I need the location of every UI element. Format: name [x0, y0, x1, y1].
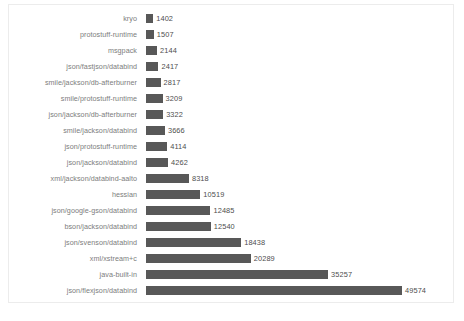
- bar-value-label: 2144: [160, 46, 177, 55]
- bar: [146, 110, 163, 119]
- bar-chart-row: json/jackson/db-afterburner3322: [9, 107, 453, 123]
- bar: [146, 126, 165, 135]
- bar-chart-row: bson/jackson/databind12540: [9, 219, 453, 235]
- chart-container: kryo1402protostuff-runtime1507msgpack214…: [8, 4, 454, 303]
- bar-category-label: json/jackson/db-afterburner: [0, 110, 137, 119]
- bar: [146, 14, 153, 23]
- bar: [146, 270, 328, 279]
- bar-with-value: 4114: [146, 139, 187, 155]
- bar-category-label: protostuff-runtime: [0, 30, 137, 39]
- bar-with-value: 49574: [146, 283, 426, 299]
- bar: [146, 238, 241, 247]
- bar-value-label: 3666: [168, 126, 185, 135]
- bar-category-label: json/jackson/databind: [0, 158, 137, 167]
- bar-with-value: 3322: [146, 107, 183, 123]
- bar-chart-row: json/flexjson/databind49574: [9, 283, 453, 299]
- bar-value-label: 20289: [254, 254, 275, 263]
- bar-with-value: 2817: [146, 75, 180, 91]
- bar-value-label: 49574: [405, 286, 426, 295]
- bar: [146, 94, 163, 103]
- bar-value-label: 1402: [156, 14, 173, 23]
- bar-value-label: 18438: [244, 238, 265, 247]
- bar-value-label: 10519: [203, 190, 224, 199]
- bar-category-label: hessian: [0, 190, 137, 199]
- bar: [146, 78, 161, 87]
- bar-chart-row: json/google-gson/databind12485: [9, 203, 453, 219]
- bar-with-value: 8318: [146, 171, 209, 187]
- bar-category-label: json/svenson/databind: [0, 238, 137, 247]
- bar-chart-row: protostuff-runtime1507: [9, 27, 453, 43]
- bar: [146, 158, 168, 167]
- bar: [146, 190, 200, 199]
- bar-with-value: 1402: [146, 11, 173, 27]
- bar-value-label: 2817: [164, 78, 181, 87]
- bar-chart-row: hessian10519: [9, 187, 453, 203]
- bar: [146, 30, 154, 39]
- bar-value-label: 35257: [331, 270, 352, 279]
- bar-with-value: 3209: [146, 91, 182, 107]
- bar-with-value: 12540: [146, 219, 235, 235]
- bar-chart-row: json/fastjson/databind2417: [9, 59, 453, 75]
- bar-category-label: json/google-gson/databind: [0, 206, 137, 215]
- bar-chart-row: smile/protostuff-runtime3209: [9, 91, 453, 107]
- bar-with-value: 2144: [146, 43, 177, 59]
- bar-value-label: 8318: [192, 174, 209, 183]
- bar-value-label: 3209: [166, 94, 183, 103]
- bar: [146, 46, 157, 55]
- bar-chart-row: smile/jackson/db-afterburner2817: [9, 75, 453, 91]
- bar-value-label: 1507: [157, 30, 174, 39]
- bar-with-value: 2417: [146, 59, 178, 75]
- bar-with-value: 18438: [146, 235, 265, 251]
- bar: [146, 222, 211, 231]
- bar-with-value: 10519: [146, 187, 224, 203]
- bar-category-label: smile/jackson/databind: [0, 126, 137, 135]
- bar-category-label: bson/jackson/databind: [0, 222, 137, 231]
- bar: [146, 254, 251, 263]
- bar-value-label: 3322: [166, 110, 183, 119]
- bar-with-value: 4262: [146, 155, 188, 171]
- bar: [146, 62, 158, 71]
- bar-with-value: 12485: [146, 203, 235, 219]
- bar-value-label: 12485: [213, 206, 234, 215]
- bar-chart-row: msgpack2144: [9, 43, 453, 59]
- bar-chart-row: smile/jackson/databind3666: [9, 123, 453, 139]
- bar-category-label: smile/protostuff-runtime: [0, 94, 137, 103]
- bar: [146, 142, 167, 151]
- bar-category-label: json/flexjson/databind: [0, 286, 137, 295]
- bar-category-label: smile/jackson/db-afterburner: [0, 78, 137, 87]
- bar-chart-row: xml/xstream+c20289: [9, 251, 453, 267]
- bar-value-label: 4114: [170, 142, 186, 151]
- bar-chart-row: json/jackson/databind4262: [9, 155, 453, 171]
- bar-chart-plot-area: kryo1402protostuff-runtime1507msgpack214…: [9, 5, 453, 302]
- bar: [146, 206, 210, 215]
- bar: [146, 286, 402, 295]
- bar-value-label: 2417: [161, 62, 178, 71]
- bar-category-label: java-built-in: [0, 270, 137, 279]
- bar-category-label: kryo: [0, 14, 137, 23]
- bar-value-label: 12540: [214, 222, 235, 231]
- bar-with-value: 35257: [146, 267, 352, 283]
- bar-chart-row: json/protostuff-runtime4114: [9, 139, 453, 155]
- bar-category-label: msgpack: [0, 46, 137, 55]
- bar-with-value: 1507: [146, 27, 174, 43]
- bar-category-label: xml/jackson/databind-aalto: [0, 174, 137, 183]
- bar-with-value: 20289: [146, 251, 275, 267]
- bar-chart-row: json/svenson/databind18438: [9, 235, 453, 251]
- bar-category-label: json/protostuff-runtime: [0, 142, 137, 151]
- bar-category-label: xml/xstream+c: [0, 254, 137, 263]
- bar-chart-row: java-built-in35257: [9, 267, 453, 283]
- bar: [146, 174, 189, 183]
- bar-value-label: 4262: [171, 158, 188, 167]
- bar-with-value: 3666: [146, 123, 185, 139]
- bar-category-label: json/fastjson/databind: [0, 62, 137, 71]
- bar-chart-row: xml/jackson/databind-aalto8318: [9, 171, 453, 187]
- bar-chart-row: kryo1402: [9, 11, 453, 27]
